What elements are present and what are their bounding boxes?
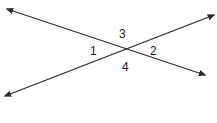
angle-label-3: 3 — [119, 27, 126, 41]
line-b — [5, 15, 214, 96]
angle-label-1: 1 — [90, 44, 97, 58]
line-a — [7, 9, 205, 75]
intersecting-lines-diagram: 3 1 2 4 — [0, 0, 217, 123]
angle-label-4: 4 — [122, 60, 129, 74]
angle-label-2: 2 — [150, 44, 157, 58]
